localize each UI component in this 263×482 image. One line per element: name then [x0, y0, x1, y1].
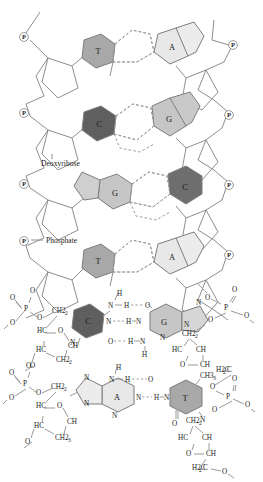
- dna-diagram-svg: .bk{fill:none;stroke:#8e8e8e;stroke-widt…: [0, 0, 263, 482]
- atom-H-cg4: H: [142, 351, 147, 359]
- atom-CH3-t: CH3: [200, 372, 214, 380]
- atom-O-bl2: O: [30, 362, 35, 370]
- base-letter-T-1: T: [95, 47, 100, 56]
- atom-P-r: P: [224, 304, 228, 312]
- base-letter-G-3: G: [112, 189, 118, 198]
- atom-O-bl5: O: [57, 402, 62, 410]
- atom-HC-bl1: HC: [36, 402, 46, 410]
- atom-O-t: O: [172, 420, 177, 428]
- atom-P-br: P: [226, 393, 230, 401]
- atom-N-g3: N: [160, 334, 166, 342]
- atom-N-c1: N: [70, 339, 76, 347]
- atom-HC-r1: HC: [172, 346, 182, 354]
- atom-O-cg2: O: [108, 338, 113, 346]
- atom-CH2-bl-sub: 2: [64, 386, 67, 392]
- atom-N-a2: N: [84, 400, 90, 408]
- detail-base-letter-G: G: [161, 318, 167, 327]
- atom-O-bl4: O: [36, 389, 41, 397]
- atom-CH2-sr: CH2: [186, 417, 200, 425]
- atom-H-cg2: H: [126, 318, 131, 326]
- atom-N-cg2: N: [106, 318, 112, 326]
- atom-CH-sr2: CH: [206, 450, 216, 458]
- atom-CH2-sub-b: 2: [69, 359, 72, 365]
- atom-P-bl: P: [23, 380, 27, 388]
- atom-N-cg1: N: [108, 302, 114, 310]
- atom-O-sr: O: [186, 450, 191, 458]
- base-letter-A-1: A: [169, 43, 175, 52]
- atom-N-a1: N: [84, 374, 90, 382]
- atom-O-bl3: O: [9, 394, 14, 402]
- atom-N-cg3: N: [136, 318, 142, 326]
- atom-HC-l2: HC: [36, 346, 46, 354]
- atom-CH2-sub: 2: [65, 310, 68, 316]
- atom-O-r2: O: [232, 286, 237, 294]
- atom-HC-l1: HC: [37, 327, 47, 335]
- atom-C-br: C: [227, 366, 232, 374]
- atom-H-at1: H: [125, 376, 130, 384]
- phosphate-label-right-4: P: [227, 251, 231, 258]
- atom-HC-bl2: HC: [34, 422, 44, 430]
- atom-CH-bl1: CH: [67, 418, 77, 426]
- base-letter-T-4: T: [95, 257, 100, 266]
- base-letter-G-2: G: [166, 115, 172, 124]
- deoxyribose-label: Deoxyribose: [41, 159, 80, 168]
- phosphate-label-left-2: P: [22, 109, 26, 116]
- detail-base-letter-C: C: [85, 317, 91, 326]
- phosphate-label-left-3: P: [22, 180, 26, 187]
- detail-base-letter-T: T: [182, 394, 187, 403]
- atom-O-br2: O: [232, 375, 237, 383]
- atom-CH-r2: CH: [200, 361, 210, 369]
- atom-H-cg3: H: [128, 338, 133, 346]
- atom-H2C-sub: 2: [223, 369, 226, 375]
- phosphate-label-right-3: P: [227, 181, 231, 188]
- detail-base-letter-A: A: [114, 393, 120, 402]
- atom-CH3-bl: CH2: [55, 434, 69, 442]
- atom-O-sr2: O: [222, 468, 227, 476]
- base-letter-C-3: C: [182, 183, 188, 192]
- atom-CH3-t-sub: 3: [213, 375, 216, 381]
- atom-N-at1: N: [109, 376, 115, 384]
- base-letter-A-4: A: [169, 253, 175, 262]
- atom-CH2-bl1: CH2: [51, 383, 65, 391]
- phosphate-label: Phosphate: [46, 236, 78, 245]
- atom-O-br1: O: [210, 383, 215, 391]
- atom-N-g2: N: [184, 321, 190, 329]
- atom-C-sr: C: [203, 464, 208, 472]
- atom-CH2-l2: CH2: [56, 356, 70, 364]
- atom-N-g1: N: [196, 299, 202, 307]
- atom-O-c: O: [10, 319, 15, 327]
- atom-O-r3: O: [208, 316, 213, 324]
- phosphate-label-right-2: P: [227, 111, 231, 118]
- dna-structure-figure: .bk{fill:none;stroke:#8e8e8e;stroke-widt…: [0, 0, 263, 482]
- atom-N-at2: N: [136, 394, 142, 402]
- atom-O-r4: O: [244, 312, 249, 320]
- atom-CH2-r1: CH2: [182, 330, 196, 338]
- atom-O-d: O: [37, 314, 42, 322]
- atom-N-cg4: N: [140, 338, 146, 346]
- atom-CH-sr1: CH: [202, 434, 212, 442]
- phosphate-label-left-1: P: [22, 33, 26, 40]
- base-letter-C-2: C: [96, 120, 102, 129]
- atom-O-r5: O: [180, 361, 185, 369]
- atom-O-b: O: [30, 287, 35, 295]
- atom-CH2-r-sub: 2: [195, 333, 198, 339]
- atom-CH2-l1: CH2: [52, 307, 66, 315]
- atom-H2C-sr-sub: 2: [199, 467, 202, 473]
- atom-O-r1: O: [205, 294, 210, 302]
- phosphate-label-right-1: P: [231, 41, 235, 48]
- atom-CH3-bl-sub: 3: [68, 437, 71, 443]
- atom-O-l1: O: [58, 327, 63, 335]
- atom-N-at3: N: [164, 394, 170, 402]
- atom-HC-sr1: HC: [178, 434, 188, 442]
- atom-H-at2: H: [154, 394, 159, 402]
- atom-O-br3: O: [212, 406, 217, 414]
- atom-O-bl1: O: [9, 369, 14, 377]
- atom-H-cg1: H: [124, 302, 129, 310]
- atom-CH-r1: CH: [196, 346, 206, 354]
- atom-CH2-sr-sub: 2: [199, 420, 202, 426]
- atom-O: O: [10, 294, 15, 302]
- atom-N-a3: N: [112, 412, 118, 420]
- phosphate-label-left-4: P: [22, 237, 26, 244]
- atom-O-at1: O: [148, 376, 153, 384]
- atom-O-br4: O: [245, 401, 250, 409]
